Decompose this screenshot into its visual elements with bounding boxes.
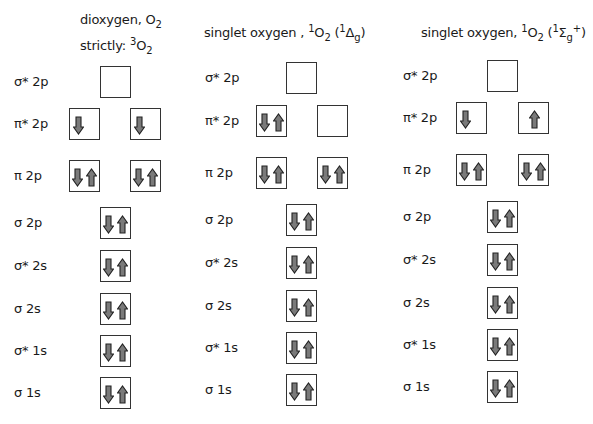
spin-up-arrow-icon bbox=[504, 295, 515, 314]
orbital-box-up bbox=[518, 102, 549, 134]
spin-down-arrow-icon bbox=[490, 379, 501, 398]
title-paren: ) bbox=[360, 25, 365, 40]
orbital-label: σ* 2s bbox=[205, 255, 238, 270]
orbital-box-pair bbox=[487, 201, 518, 233]
column-1-title: dioxygen, O2 bbox=[80, 12, 162, 28]
spin-up-arrow-icon bbox=[117, 215, 128, 234]
orbital-box-down bbox=[69, 108, 100, 140]
spin-up-arrow-icon bbox=[303, 298, 314, 317]
orbital-box-pair bbox=[100, 207, 131, 239]
spin-down-arrow-icon bbox=[289, 340, 300, 359]
title-text: singlet oxygen , bbox=[204, 25, 308, 40]
spin-down-arrow-icon bbox=[259, 113, 270, 132]
column-1-subtitle: strictly: 3O2 bbox=[80, 38, 152, 54]
spin-up-arrow-icon bbox=[273, 113, 284, 132]
spin-down-arrow-icon bbox=[320, 165, 331, 184]
spin-up-arrow-icon bbox=[117, 385, 128, 404]
spin-up-arrow-icon bbox=[147, 168, 158, 187]
spin-up-arrow-icon bbox=[117, 258, 128, 277]
spin-up-arrow-icon bbox=[535, 162, 546, 181]
orbital-box-pair bbox=[256, 157, 287, 189]
orbital-label: σ* 2s bbox=[403, 252, 436, 267]
spin-down-arrow-icon bbox=[459, 162, 470, 181]
orbital-box-pair bbox=[286, 290, 317, 322]
spin-down-arrow-icon bbox=[259, 165, 270, 184]
orbital-box-pair bbox=[100, 250, 131, 282]
orbital-box-empty bbox=[317, 105, 348, 137]
orbital-label: σ 1s bbox=[205, 382, 232, 397]
spin-up-arrow-icon bbox=[303, 255, 314, 274]
spin-down-arrow-icon bbox=[103, 258, 114, 277]
spin-down-arrow-icon bbox=[133, 168, 144, 187]
spin-down-arrow-icon bbox=[490, 209, 501, 228]
orbital-label: σ* 2p bbox=[14, 74, 48, 89]
orbital-box-empty bbox=[487, 60, 518, 92]
orbital-box-pair bbox=[487, 244, 518, 276]
orbital-label: π* 2p bbox=[205, 113, 239, 128]
spin-down-arrow-icon bbox=[490, 295, 501, 314]
spin-up-arrow-icon bbox=[303, 212, 314, 231]
orbital-box-empty bbox=[100, 66, 131, 98]
orbital-box-pair bbox=[286, 332, 317, 364]
spin-down-arrow-icon bbox=[490, 252, 501, 271]
orbital-box-down bbox=[130, 108, 161, 140]
column-3-title: singlet oxygen, 1O2 (1Σg+) bbox=[421, 25, 586, 41]
orbital-label: σ* 1s bbox=[14, 343, 47, 358]
spin-up-arrow-icon bbox=[117, 301, 128, 320]
subtitle-subscript: 2 bbox=[146, 45, 152, 56]
orbital-label: π 2p bbox=[14, 168, 42, 183]
spin-down-arrow-icon bbox=[490, 337, 501, 356]
orbital-label: π* 2p bbox=[14, 116, 48, 131]
subtitle-main: O bbox=[136, 38, 146, 53]
orbital-box-pair bbox=[286, 204, 317, 236]
title-subscript: 2 bbox=[156, 19, 162, 30]
spin-up-arrow-icon bbox=[504, 379, 515, 398]
orbital-box-empty bbox=[286, 62, 317, 94]
orbital-box-pair bbox=[518, 154, 549, 186]
subtitle-text: strictly: bbox=[80, 38, 130, 53]
orbital-label: σ* 1s bbox=[205, 340, 238, 355]
orbital-label: σ 2s bbox=[14, 301, 41, 316]
orbital-box-pair bbox=[100, 335, 131, 367]
orbital-label: π 2p bbox=[205, 165, 233, 180]
orbital-label: σ 2p bbox=[403, 209, 431, 224]
title-paren: ) bbox=[581, 25, 586, 40]
spin-up-arrow-icon bbox=[473, 162, 484, 181]
orbital-label: π* 2p bbox=[403, 110, 437, 125]
spin-down-arrow-icon bbox=[521, 162, 532, 181]
orbital-box-pair bbox=[487, 287, 518, 319]
spin-down-arrow-icon bbox=[103, 215, 114, 234]
title-text: singlet oxygen, bbox=[421, 25, 521, 40]
spin-down-arrow-icon bbox=[103, 301, 114, 320]
orbital-box-down bbox=[456, 102, 487, 134]
spin-up-arrow-icon bbox=[303, 382, 314, 401]
spin-down-arrow-icon bbox=[289, 382, 300, 401]
spin-up-arrow-icon bbox=[86, 168, 97, 187]
spin-up-arrow-icon bbox=[504, 252, 515, 271]
orbital-box-pair bbox=[286, 247, 317, 279]
orbital-box-pair bbox=[286, 374, 317, 406]
orbital-label: σ 1s bbox=[403, 379, 430, 394]
orbital-label: σ 2p bbox=[205, 212, 233, 227]
orbital-label: σ 1s bbox=[14, 385, 41, 400]
spin-up-arrow-icon bbox=[529, 110, 540, 129]
spin-up-arrow-icon bbox=[504, 209, 515, 228]
spin-down-arrow-icon bbox=[289, 298, 300, 317]
title-text: dioxygen, O bbox=[80, 12, 156, 27]
spin-down-arrow-icon bbox=[103, 385, 114, 404]
orbital-box-pair bbox=[456, 154, 487, 186]
orbital-label: π 2p bbox=[403, 162, 431, 177]
title-main: O bbox=[314, 25, 324, 40]
term-symbol: Σ bbox=[559, 25, 567, 40]
orbital-box-pair bbox=[317, 157, 348, 189]
orbital-box-pair bbox=[130, 160, 161, 192]
spin-down-arrow-icon bbox=[289, 255, 300, 274]
orbital-label: σ 2s bbox=[403, 295, 430, 310]
spin-up-arrow-icon bbox=[303, 340, 314, 359]
spin-down-arrow-icon bbox=[72, 168, 83, 187]
term-symbol: Δ bbox=[346, 25, 355, 40]
spin-up-arrow-icon bbox=[117, 343, 128, 362]
orbital-box-pair bbox=[100, 377, 131, 409]
orbital-box-pair bbox=[256, 105, 287, 137]
orbital-box-pair bbox=[69, 160, 100, 192]
